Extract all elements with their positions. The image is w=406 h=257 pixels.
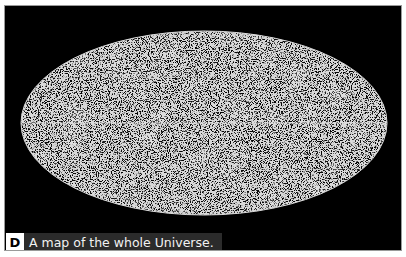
caption-text: A map of the whole Universe. <box>24 233 222 251</box>
figure-caption: D A map of the whole Universe. <box>6 233 222 251</box>
sky-map-projection <box>5 6 402 251</box>
figure-label: D <box>6 233 24 251</box>
universe-map-image: D A map of the whole Universe. <box>4 5 402 251</box>
galaxy-distribution <box>5 6 402 251</box>
